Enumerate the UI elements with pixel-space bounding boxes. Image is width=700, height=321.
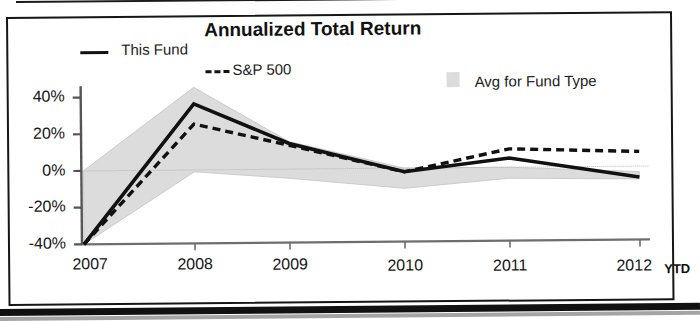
legend-sp500-dashed-line-icon xyxy=(205,70,229,73)
x-axis-line xyxy=(82,239,650,244)
legend-this-fund-line-icon xyxy=(80,51,108,54)
y-axis-tick-label: 40% xyxy=(9,88,65,106)
x-axis-tick-label: 2007 xyxy=(58,255,122,274)
legend-this-fund-label: This Fund xyxy=(121,40,188,58)
legend-avg-fund-type-swatch-icon xyxy=(446,72,459,87)
x-axis-tick-label: 2011 xyxy=(478,256,542,275)
chart-title: Annualized Total Return xyxy=(204,17,421,41)
x-axis-ytd-note: YTD xyxy=(664,261,690,276)
y-axis-tick-label: -40% xyxy=(10,234,66,252)
annualized-total-return-chart-card: Annualized Total Return This Fund S&P 50… xyxy=(6,11,674,306)
y-axis-tick-label: 0% xyxy=(9,161,65,179)
y-axis-tick-label: -20% xyxy=(10,198,66,216)
legend-avg-fund-type-label: Avg for Fund Type xyxy=(475,72,597,90)
x-axis-tick-label: 2009 xyxy=(258,256,322,275)
legend-sp500-label: S&P 500 xyxy=(232,61,291,79)
x-axis-tick-label: 2010 xyxy=(373,256,437,275)
x-axis-tick-label: 2012 xyxy=(602,256,666,275)
y-axis-line xyxy=(81,86,82,244)
x-axis-tick-label: 2008 xyxy=(163,255,227,274)
previous-box-bottom-edge xyxy=(16,0,662,3)
y-axis-tick-label: 20% xyxy=(9,124,65,142)
